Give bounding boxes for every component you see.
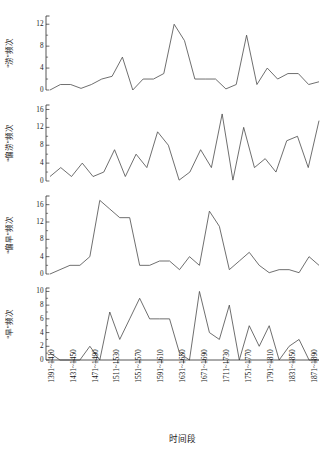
- panel-1: 0481216“偏涝”频次: [4, 105, 319, 185]
- x-tick-label: 1471~1490: [91, 349, 100, 383]
- y-axis-title-1: “偏涝”频次: [4, 124, 14, 161]
- y-tick-label: 12: [36, 218, 44, 226]
- series-line-1: [50, 114, 319, 180]
- y-tick-label: 4: [40, 253, 44, 261]
- y-tick-label: 8: [40, 235, 44, 243]
- y-tick-label: 12: [36, 20, 44, 28]
- x-axis-title: 时间段: [169, 433, 196, 444]
- series-line-0: [50, 24, 319, 90]
- y-tick-label: 12: [36, 123, 44, 131]
- y-tick-label: 16: [36, 201, 44, 209]
- y-tick-label: 8: [40, 42, 44, 50]
- x-tick-label: 1671~1690: [200, 349, 209, 383]
- x-tick-label: 1871~1890: [310, 349, 319, 383]
- y-tick-label: 0: [40, 270, 44, 278]
- y-tick-label: 8: [40, 301, 44, 309]
- x-tick-label: 1791~1810: [266, 349, 275, 383]
- x-tick-label: 1551~1570: [134, 349, 143, 383]
- x-tick-label: 1431~1450: [69, 349, 78, 383]
- y-axis-title-0: “涝”频次: [4, 38, 14, 67]
- x-tick-label: 1751~1770: [244, 349, 253, 383]
- chart-canvas: 04812“涝”频次0481216“偏涝”频次0481216“偏旱”频次0246…: [0, 0, 327, 450]
- y-axis-title-3: “旱”频次: [4, 309, 14, 338]
- y-tick-label: 0: [40, 356, 44, 364]
- y-tick-label: 8: [40, 141, 44, 149]
- y-tick-label: 4: [40, 64, 44, 72]
- x-tick-label: 1391~1410: [47, 349, 56, 383]
- panel-0: 04812“涝”频次: [4, 16, 319, 94]
- y-tick-label: 0: [40, 177, 44, 185]
- x-tick-label: 1511~1530: [112, 349, 121, 383]
- x-tick-label: 1591~1610: [156, 349, 165, 383]
- y-tick-label: 16: [36, 106, 44, 114]
- x-tick-label: 1831~1850: [288, 349, 297, 383]
- x-tick-label: 1631~1650: [178, 349, 187, 383]
- x-tick-label: 1711~1730: [222, 349, 231, 383]
- y-tick-label: 6: [40, 315, 44, 323]
- y-tick-label: 10: [36, 287, 44, 295]
- x-axis: 1391~14101431~14501471~14901511~15301551…: [46, 349, 319, 383]
- y-tick-label: 4: [40, 159, 44, 167]
- panel-2: 0481216“偏旱”频次: [4, 196, 319, 278]
- y-axis-title-2: “偏旱”频次: [4, 216, 14, 253]
- y-tick-label: 4: [40, 329, 44, 337]
- multi-panel-line-chart: 04812“涝”频次0481216“偏涝”频次0481216“偏旱”频次0246…: [0, 0, 327, 450]
- y-tick-label: 2: [40, 342, 44, 350]
- series-line-2: [50, 200, 319, 274]
- y-tick-label: 0: [40, 86, 44, 94]
